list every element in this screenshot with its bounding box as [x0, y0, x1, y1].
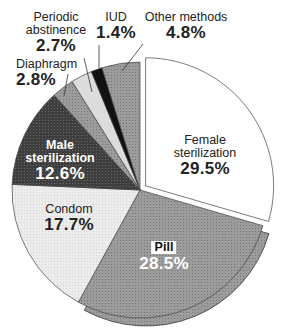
label-name: Pill: [152, 241, 177, 254]
label-value: 12.6%: [25, 165, 94, 183]
label-periodic-abstinence: Periodic abstinence 2.7%: [26, 11, 86, 55]
label-value: 28.5%: [139, 255, 189, 273]
pie-slices: [12, 58, 274, 326]
label-iud: IUD 1.4%: [96, 11, 136, 42]
label-value: 1.4%: [96, 24, 136, 42]
label-other-methods: Other methods 4.8%: [145, 11, 228, 42]
label-diaphragm: Diaphragm 2.8%: [16, 58, 77, 89]
label-value: 4.8%: [145, 24, 228, 42]
label-value: 29.5%: [174, 160, 237, 178]
label-condom: Condom 17.7%: [44, 203, 94, 234]
label-value: 2.8%: [16, 71, 77, 89]
label-male-sterilization: Male sterilization 12.6%: [25, 139, 94, 183]
label-pill: Pill 28.5%: [139, 238, 189, 273]
label-value: 2.7%: [26, 37, 86, 55]
label-female-sterilization: Female sterilization 29.5%: [174, 134, 237, 178]
label-value: 17.7%: [44, 216, 94, 234]
